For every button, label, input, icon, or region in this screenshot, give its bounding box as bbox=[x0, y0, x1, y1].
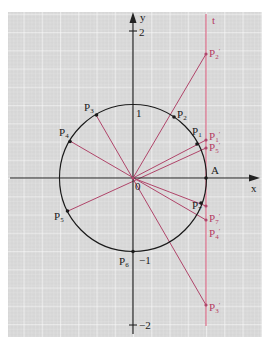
y-tick-label-neg1: −1 bbox=[139, 254, 151, 266]
unit-circle-diagram: x y 2 1 −1 −2 0 A P1 P2 P3 P4 P5 P6 P7 t… bbox=[0, 0, 267, 341]
y-axis-label: y bbox=[140, 11, 146, 23]
point-p1 bbox=[195, 142, 199, 146]
point-p3 bbox=[95, 113, 99, 117]
origin-label: 0 bbox=[135, 180, 141, 192]
point-p3-prime bbox=[204, 303, 207, 306]
point-p1-prime bbox=[204, 138, 207, 141]
point-p4 bbox=[68, 140, 72, 144]
point-p5-prime bbox=[204, 146, 207, 149]
point-p7-prime bbox=[204, 204, 207, 207]
point-p2-prime bbox=[204, 52, 207, 55]
point-a bbox=[204, 176, 208, 180]
point-p6 bbox=[131, 250, 135, 254]
tangent-label-t: t bbox=[212, 14, 215, 26]
y-tick-label-1: 1 bbox=[136, 107, 142, 119]
x-axis-label: x bbox=[251, 182, 257, 194]
point-p4-prime bbox=[204, 218, 207, 221]
point-a-label: A bbox=[211, 164, 219, 176]
point-p5 bbox=[66, 209, 70, 213]
y-tick-label-2: 2 bbox=[139, 26, 145, 38]
point-p2 bbox=[172, 115, 176, 119]
y-tick-label-neg2: −2 bbox=[139, 319, 151, 331]
